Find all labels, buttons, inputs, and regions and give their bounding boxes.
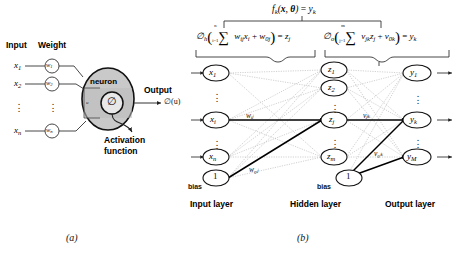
node-label-z2: z2 [328, 83, 335, 93]
hidden-bias-value: 1 [346, 172, 351, 181]
node-label-x1: x1 [209, 68, 216, 78]
subfigure-caption-b: (b) [297, 233, 309, 243]
edge-label-v0k: v₀ₖ [374, 150, 383, 158]
edge-label-vjk: vⱼₖ [363, 112, 370, 120]
weight-label-w1: w1 [46, 62, 53, 70]
output-ellipsis-top: ... [413, 92, 423, 103]
input-ellipsis-a: ... [14, 100, 24, 111]
input-ellipsis-top: ... [212, 90, 222, 101]
input-label-xn: xn [14, 126, 21, 136]
output-header-label: Output [144, 86, 172, 95]
edge-w0j [228, 120, 322, 178]
sum-symbol-label: u [86, 100, 89, 105]
w2-sub: 2 [50, 82, 52, 87]
output-sum-lower: j=1 [339, 39, 345, 44]
node-label-y1: y1 [410, 68, 417, 78]
neuron-label: neuron [90, 78, 117, 86]
node-label-xi: xi [210, 115, 216, 125]
node-output-yk [403, 112, 431, 128]
weight-header-label: Weight [38, 41, 66, 50]
hidden-bias-label: bias [317, 183, 331, 190]
input-label-x2: x2 [14, 79, 21, 89]
node-label-z1: z1 [328, 65, 335, 75]
hidden-layer-formula: ∅h( n ∑ i=1 wijxi + w0j) = zj [196, 30, 290, 45]
activation-caption-line2: function [104, 147, 138, 156]
node-label-zj: zj [329, 115, 334, 125]
input-header-label: Input [6, 41, 27, 50]
input-x2-sub: 2 [18, 82, 21, 89]
wn-sub: n [50, 129, 52, 134]
edge-label-w0j: w₀ⱼ [249, 166, 258, 174]
z1-sub: 1 [332, 68, 335, 75]
output-expression-label: ∅(u) [164, 98, 180, 106]
hidden-sum-upper: n [214, 24, 216, 29]
yM-sub: M [411, 155, 416, 162]
activation-caption-line1: Activation [104, 136, 145, 145]
hidden-ellipsis-bottom: ... [330, 136, 340, 147]
node-label-yM: yM [407, 152, 416, 162]
input-label-x1: x1 [14, 61, 21, 71]
input-bias-value: 1 [213, 172, 218, 181]
weight-label-wn: wn [46, 127, 53, 135]
top-formula-label: fk(x, θ) = yk [272, 5, 316, 16]
zm-sub: m [331, 155, 336, 162]
xi-sub: i [214, 118, 216, 125]
yk-sub: k [414, 118, 417, 125]
w1-sub: 1 [50, 64, 52, 69]
y1-sub: 1 [414, 71, 417, 78]
output-ellipsis-bottom: ... [413, 136, 423, 147]
xn-sub: n [213, 155, 216, 162]
node-label-yk: yk [410, 115, 417, 125]
hidden-ellipsis-top: ... [330, 101, 340, 112]
edge-label-wij: wᵢⱼ [246, 112, 253, 120]
subfigure-caption-a: (a) [66, 233, 78, 243]
figure-neural-network: Input Weight x1 x2 xn w1 w2 wn ... ... n… [0, 0, 460, 261]
output-sum-upper: m [341, 24, 345, 29]
layer-label-input: Input layer [190, 200, 233, 209]
input-bias-label: bias [188, 183, 202, 190]
weight-ellipsis-a: ... [48, 100, 58, 111]
input-xn-sub: n [18, 129, 21, 136]
output-layer-formula: ∅o( m ∑ j=1 vjkzj + v0k) = yk [323, 30, 416, 45]
input-ellipsis-bottom: ... [212, 137, 222, 148]
x1-sub: 1 [213, 71, 216, 78]
node-input-xi [203, 112, 229, 128]
z2-sub: 2 [332, 86, 335, 93]
hidden-sum-lower: i=1 [212, 39, 218, 44]
weight-label-w2: w2 [46, 80, 53, 88]
layer-label-output: Output layer [385, 200, 435, 209]
node-label-xn: xn [209, 152, 216, 162]
zj-sub: j [333, 118, 335, 125]
node-label-zm: zm [327, 152, 335, 162]
activation-symbol-label: ∅ [107, 96, 117, 107]
layer-label-hidden: Hidden layer [290, 200, 341, 209]
input-x1-sub: 1 [18, 64, 21, 71]
